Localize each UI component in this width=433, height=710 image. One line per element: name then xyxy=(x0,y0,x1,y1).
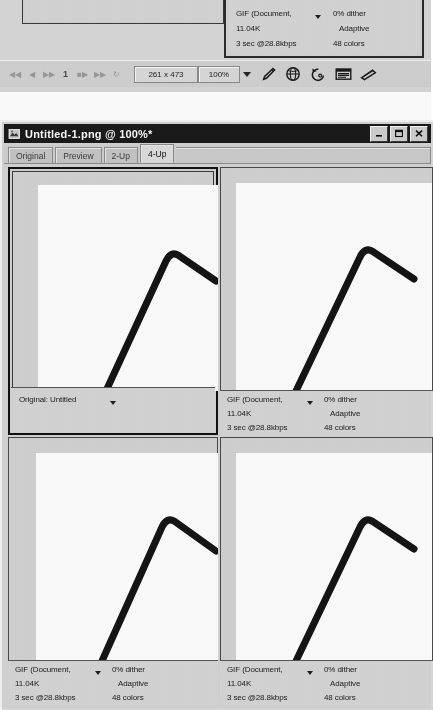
top-original-infobox[interactable]: Original: Untitled xyxy=(22,0,224,24)
tab-strip-filler xyxy=(176,147,431,163)
view-mode-tabs: Original Preview 2-Up 4-Up xyxy=(4,145,431,164)
top-optimized-infobox[interactable]: GIF (Document, 0% dither 11.04K Adaptive… xyxy=(224,0,424,58)
tab-preview[interactable]: Preview xyxy=(55,147,101,163)
top-pane-strip: Original: Untitled GIF (Document, 0% dit… xyxy=(0,0,431,60)
pane-optimized-1-dither: 0% dither xyxy=(324,395,357,404)
pane-optimized-3-dither: 0% dither xyxy=(324,665,357,674)
pane-optimized-3[interactable]: GIF (Document, 0% dither 11.04K Adaptive… xyxy=(220,437,433,705)
eyedropper-icon[interactable] xyxy=(258,64,278,83)
pane-optimized-3-infobox[interactable]: GIF (Document, 0% dither 11.04K Adaptive… xyxy=(220,660,433,705)
zoom-level-field[interactable]: 100% xyxy=(198,66,240,83)
pane-optimized-2-format: GIF (Document, xyxy=(15,665,71,674)
pane-optimized-3-colors: 48 colors xyxy=(324,693,356,702)
status-bar: ◀◀ ◀ ▶▶ 1 ■▶ ▶▶ ↻ 261 x 473 100% xyxy=(0,60,431,87)
tab-original[interactable]: Original xyxy=(8,147,53,163)
imageready-icon xyxy=(7,127,21,140)
rollover-icon[interactable] xyxy=(308,64,328,83)
jump-to-icon[interactable] xyxy=(358,64,378,83)
pane-optimized-1-filesize: 11.04K xyxy=(227,409,251,418)
top-palette-label: Adaptive xyxy=(339,24,369,33)
top-optimized-infobox-inner: GIF (Document, 0% dither 11.04K Adaptive… xyxy=(229,0,419,53)
chevron-down-icon[interactable] xyxy=(110,401,116,405)
tab-2up[interactable]: 2-Up xyxy=(104,147,138,163)
pane-optimized-2[interactable]: GIF (Document, 0% dither 11.04K Adaptive… xyxy=(8,437,218,705)
status-tool-group xyxy=(258,64,378,83)
window-title: Untitled-1.png @ 100%* xyxy=(25,128,370,140)
chevron-down-icon[interactable] xyxy=(95,671,101,675)
pane-optimized-2-canvas[interactable] xyxy=(36,453,218,661)
zoom-dropdown-arrow-icon[interactable] xyxy=(243,72,251,77)
minimize-icon[interactable] xyxy=(370,126,388,142)
previous-frame-icon[interactable]: ◀ xyxy=(23,67,40,81)
chevron-down-icon[interactable] xyxy=(315,15,321,19)
pane-optimized-1-download-time: 3 sec @28.8kbps xyxy=(227,423,287,432)
browser-select-icon[interactable] xyxy=(333,64,353,83)
window-fragment-top: Original: Untitled GIF (Document, 0% dit… xyxy=(0,0,431,92)
top-format-label: GIF (Document, xyxy=(236,9,292,18)
frame-number: 1 xyxy=(57,67,74,81)
maximize-icon[interactable] xyxy=(390,126,408,142)
top-colors-label: 48 colors xyxy=(333,39,365,48)
pane-optimized-3-download-time: 3 sec @28.8kbps xyxy=(227,693,287,702)
pane-optimized-3-format: GIF (Document, xyxy=(227,665,283,674)
first-frame-icon[interactable]: ◀◀ xyxy=(6,67,23,81)
pane-optimized-1-colors: 48 colors xyxy=(324,423,356,432)
top-original-infobox-inner: Original: Untitled xyxy=(25,0,221,21)
top-dither-label: 0% dither xyxy=(333,9,366,18)
pane-optimized-2-infobox[interactable]: GIF (Document, 0% dither 11.04K Adaptive… xyxy=(8,660,218,705)
next-frame-icon[interactable]: ▶▶ xyxy=(91,67,108,81)
pane-optimized-1[interactable]: GIF (Document, 0% dither 11.04K Adaptive… xyxy=(220,167,433,435)
top-filesize-label: 11.04K xyxy=(236,24,260,33)
pane-optimized-1-infobox[interactable]: GIF (Document, 0% dither 11.04K Adaptive… xyxy=(220,390,433,435)
top-download-time-label: 3 sec @28.8kbps xyxy=(236,39,296,48)
preview-in-browser-icon[interactable] xyxy=(283,64,303,83)
pane-optimized-3-filesize: 11.04K xyxy=(227,679,251,688)
pane-optimized-3-canvas[interactable] xyxy=(236,453,432,661)
pane-original[interactable]: Original: Untitled xyxy=(8,167,218,435)
loop-icon[interactable]: ↻ xyxy=(108,67,125,81)
pane-original-infobox[interactable]: Original: Untitled xyxy=(11,387,215,432)
pane-optimized-1-palette: Adaptive xyxy=(330,409,360,418)
pane-optimized-2-download-time: 3 sec @28.8kbps xyxy=(15,693,75,702)
pane-optimized-2-filesize: 11.04K xyxy=(15,679,39,688)
four-up-grid: Original: Untitled GIF (Document, 0% dit… xyxy=(4,163,433,708)
play-icon[interactable]: ▶▶ xyxy=(40,67,57,81)
pane-optimized-2-palette: Adaptive xyxy=(118,679,148,688)
pane-optimized-2-dither: 0% dither xyxy=(112,665,145,674)
pane-optimized-2-colors: 48 colors xyxy=(112,693,144,702)
close-icon[interactable] xyxy=(410,126,428,142)
pane-original-canvas[interactable] xyxy=(38,185,218,391)
imageready-optimize-window: Untitled-1.png @ 100%* Original Preview … xyxy=(0,120,433,710)
title-bar[interactable]: Untitled-1.png @ 100%* xyxy=(4,124,431,143)
tab-4up[interactable]: 4-Up xyxy=(140,144,174,163)
stop-icon[interactable]: ■▶ xyxy=(74,67,91,81)
pane-optimized-3-palette: Adaptive xyxy=(330,679,360,688)
chevron-down-icon[interactable] xyxy=(307,401,313,405)
pane-optimized-1-format: GIF (Document, xyxy=(227,395,283,404)
chevron-down-icon[interactable] xyxy=(307,671,313,675)
window-controls xyxy=(370,126,428,142)
pane-original-label: Original: Untitled xyxy=(19,395,76,404)
animation-nav-group: ◀◀ ◀ ▶▶ 1 ■▶ ▶▶ ↻ xyxy=(6,67,125,81)
image-dimensions-field: 261 x 473 xyxy=(134,66,198,83)
pane-optimized-1-canvas[interactable] xyxy=(236,183,432,391)
